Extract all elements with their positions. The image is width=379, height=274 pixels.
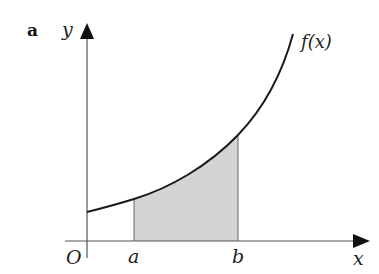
curve-label: f(x) xyxy=(299,31,332,52)
lower-bound-label: a xyxy=(128,245,139,267)
y-axis-label: y xyxy=(61,18,73,40)
y-axis-arrow-icon xyxy=(80,23,94,39)
x-axis-arrow-icon xyxy=(353,234,370,248)
x-axis-label: x xyxy=(353,247,364,269)
panel-label: a xyxy=(27,20,38,40)
integral-diagram: a y f(x) O a b x xyxy=(0,0,379,274)
origin-label: O xyxy=(66,246,82,268)
upper-bound-label: b xyxy=(232,245,244,267)
